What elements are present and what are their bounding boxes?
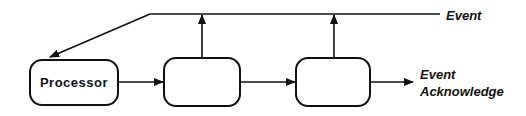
event-acknowledge-label-line2: Acknowledge: [420, 84, 504, 99]
stage1-node: [164, 58, 240, 106]
event-to-processor-arrow: [50, 14, 150, 57]
processor-label: Processor: [30, 60, 118, 105]
stage2-node: [296, 58, 370, 106]
event-acknowledge-label-line1: Event: [420, 67, 455, 82]
event-label: Event: [446, 8, 481, 23]
